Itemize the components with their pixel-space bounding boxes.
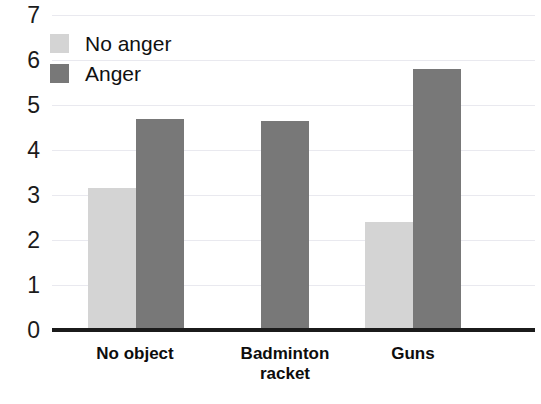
legend: No anger Anger: [50, 28, 171, 88]
y-tick-label-6: 6: [10, 49, 40, 72]
bar-no-object-no-anger: [88, 188, 136, 330]
x-axis-label-no-object-line1: No object: [65, 344, 205, 364]
legend-label-no-anger: No anger: [85, 33, 171, 54]
x-axis-label-badminton-racket-line1: Badminton: [215, 344, 355, 364]
bar-chart-figure: 7 6 5 4 3 2 1 0 No object Badminton rack…: [0, 0, 541, 404]
bar-guns-anger: [413, 69, 461, 330]
bar-guns-no-anger: [365, 222, 413, 330]
legend-item-no-anger: No anger: [50, 28, 171, 58]
y-tick-label-1: 1: [10, 274, 40, 297]
y-tick-label-0: 0: [10, 319, 40, 342]
x-axis-line: [52, 328, 535, 332]
y-tick-label-7: 7: [10, 4, 40, 27]
plot-area: 7 6 5 4 3 2 1 0 No object Badminton rack…: [0, 0, 541, 404]
x-axis-label-badminton-racket: Badminton racket: [215, 344, 355, 384]
y-tick-label-5: 5: [10, 94, 40, 117]
x-axis-label-guns: Guns: [343, 344, 483, 364]
y-tick-label-2: 2: [10, 229, 40, 252]
legend-item-anger: Anger: [50, 58, 171, 88]
legend-swatch-anger-icon: [50, 64, 69, 83]
y-tick-label-3: 3: [10, 184, 40, 207]
x-axis-label-no-object: No object: [65, 344, 205, 364]
bar-no-object-anger: [136, 119, 184, 331]
x-axis-label-guns-line1: Guns: [343, 344, 483, 364]
gridline-7: [52, 15, 535, 16]
bar-badminton-racket-anger: [261, 121, 309, 330]
legend-swatch-no-anger-icon: [50, 34, 69, 53]
y-tick-label-4: 4: [10, 139, 40, 162]
legend-label-anger: Anger: [85, 63, 141, 84]
gridline-5: [52, 105, 535, 106]
x-axis-label-badminton-racket-line2: racket: [215, 364, 355, 384]
